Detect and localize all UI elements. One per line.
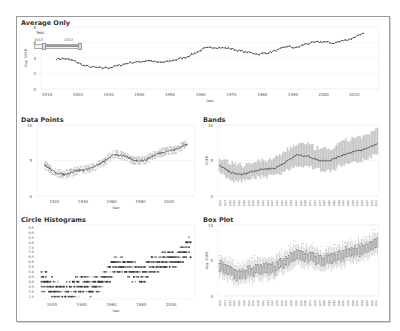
svg-text:10: 10 <box>208 123 214 128</box>
svg-text:2007: 2007 <box>366 200 369 207</box>
svg-text:1980: 1980 <box>136 302 147 307</box>
box-plot-chart: 0510Avg. SOFR191419171920192319261929193… <box>203 216 385 316</box>
data-points-chart: 051019201940196019802000Year <box>21 116 201 211</box>
panel-circle-histograms: Circle Histograms 2.53.03.54.04.55.05.56… <box>21 216 201 316</box>
svg-text:1983: 1983 <box>328 300 331 307</box>
svg-text:8.0: 8.0 <box>29 241 34 245</box>
panel-data-points: Data Points 051019201940196019802000Year <box>21 116 201 211</box>
svg-text:1986: 1986 <box>333 300 336 307</box>
svg-text:0: 0 <box>33 87 36 92</box>
svg-text:1956: 1956 <box>285 200 288 207</box>
svg-text:3.0: 3.0 <box>29 290 34 294</box>
svg-text:2004: 2004 <box>361 300 364 307</box>
slider-label: Year <box>36 30 44 35</box>
svg-text:1926: 1926 <box>238 200 241 207</box>
svg-text:1917: 1917 <box>224 300 227 307</box>
svg-text:1920: 1920 <box>49 199 60 204</box>
bands-chart: 0510SOFR19141917192019231926192919321935… <box>203 116 385 211</box>
svg-text:2001: 2001 <box>356 200 359 207</box>
svg-text:5.5: 5.5 <box>29 265 34 269</box>
svg-text:4.5: 4.5 <box>29 275 34 279</box>
svg-text:1990: 1990 <box>288 92 299 97</box>
svg-text:10: 10 <box>27 123 33 128</box>
svg-text:1932: 1932 <box>248 300 251 307</box>
svg-text:1938: 1938 <box>257 300 260 307</box>
svg-text:2007: 2007 <box>366 300 369 307</box>
svg-text:9.0: 9.0 <box>29 231 34 235</box>
svg-text:1947: 1947 <box>271 300 274 307</box>
svg-text:1980: 1980 <box>323 300 326 307</box>
svg-text:0: 0 <box>210 294 213 299</box>
svg-text:1950: 1950 <box>276 300 279 307</box>
svg-text:1962: 1962 <box>295 200 298 207</box>
svg-text:1935: 1935 <box>252 300 255 307</box>
svg-text:1989: 1989 <box>338 200 341 207</box>
svg-text:1980: 1980 <box>135 199 146 204</box>
slider-max-label: 2013 <box>64 38 73 42</box>
svg-text:1995: 1995 <box>347 200 350 207</box>
year-slider[interactable]: Year 1913 2013 <box>34 30 82 52</box>
svg-text:1929: 1929 <box>243 200 246 207</box>
svg-text:5: 5 <box>210 158 213 163</box>
svg-text:1953: 1953 <box>281 300 284 307</box>
circle-histogram-chart: 2.53.03.54.04.55.05.56.06.57.07.58.08.59… <box>21 216 201 316</box>
svg-text:1959: 1959 <box>290 200 293 207</box>
svg-text:Year: Year <box>112 206 120 210</box>
svg-text:6.0: 6.0 <box>29 260 34 264</box>
svg-text:1995: 1995 <box>347 300 350 307</box>
svg-text:8: 8 <box>33 25 36 30</box>
svg-text:1920: 1920 <box>47 302 58 307</box>
svg-text:3.5: 3.5 <box>29 285 34 289</box>
svg-text:5: 5 <box>210 258 213 263</box>
slider-handle-max[interactable] <box>78 43 82 50</box>
svg-text:2000: 2000 <box>319 92 330 97</box>
svg-text:1944: 1944 <box>267 200 270 207</box>
svg-text:0: 0 <box>29 194 32 199</box>
svg-text:2004: 2004 <box>361 200 364 207</box>
svg-text:1930: 1930 <box>104 92 115 97</box>
svg-text:1998: 1998 <box>352 200 355 207</box>
svg-text:1953: 1953 <box>281 200 284 207</box>
panel-bands: Bands 0510SOFR19141917192019231926192919… <box>203 116 385 211</box>
svg-text:1947: 1947 <box>271 200 274 207</box>
slider-handle-min[interactable] <box>42 43 46 50</box>
svg-text:Year: Year <box>112 309 120 313</box>
svg-text:1914: 1914 <box>219 200 222 207</box>
svg-text:4.0: 4.0 <box>29 280 34 284</box>
svg-text:6.5: 6.5 <box>29 255 34 259</box>
slider-range <box>44 45 79 47</box>
svg-text:1974: 1974 <box>314 200 317 207</box>
svg-text:7.5: 7.5 <box>29 246 34 250</box>
svg-text:1950: 1950 <box>276 200 279 207</box>
svg-text:1920: 1920 <box>229 300 232 307</box>
svg-text:1935: 1935 <box>252 200 255 207</box>
svg-text:1971: 1971 <box>309 200 312 207</box>
svg-text:2.5: 2.5 <box>29 295 34 299</box>
svg-text:1940: 1940 <box>78 199 89 204</box>
svg-text:2010: 2010 <box>371 200 374 207</box>
svg-text:2: 2 <box>33 71 36 76</box>
svg-text:1998: 1998 <box>352 300 355 307</box>
svg-text:1920: 1920 <box>73 92 84 97</box>
panel-box-plot: Box Plot 0510Avg. SOFR191419171920192319… <box>203 216 385 316</box>
svg-text:1968: 1968 <box>304 300 307 307</box>
svg-text:1974: 1974 <box>314 300 317 307</box>
svg-text:2001: 2001 <box>356 300 359 307</box>
svg-text:1932: 1932 <box>248 200 251 207</box>
svg-text:SOFR: SOFR <box>205 155 209 165</box>
svg-text:1983: 1983 <box>328 200 331 207</box>
svg-text:1971: 1971 <box>309 300 312 307</box>
svg-text:2000: 2000 <box>166 302 177 307</box>
svg-text:2013: 2013 <box>375 300 378 307</box>
svg-text:8.5: 8.5 <box>29 236 34 240</box>
svg-text:7.0: 7.0 <box>29 250 34 254</box>
svg-text:1944: 1944 <box>267 300 270 307</box>
svg-text:1980: 1980 <box>323 200 326 207</box>
svg-text:1960: 1960 <box>196 92 207 97</box>
svg-text:1986: 1986 <box>333 200 336 207</box>
svg-text:2010: 2010 <box>371 300 374 307</box>
svg-text:1929: 1929 <box>243 300 246 307</box>
svg-text:1926: 1926 <box>238 300 241 307</box>
svg-text:1989: 1989 <box>338 300 341 307</box>
svg-text:1992: 1992 <box>342 300 345 307</box>
